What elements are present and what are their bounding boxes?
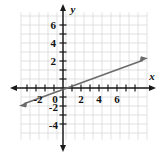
x-tick-label-2: 2 <box>78 93 84 105</box>
y-tick-label-2: 2 <box>51 55 57 67</box>
x-axis-label: x <box>148 70 155 82</box>
grid-lines <box>21 12 147 139</box>
x-tick-label--2: -2 <box>33 93 43 105</box>
x-tick-label-6: 6 <box>114 93 120 105</box>
graph-canvas: -2 2 4 6 0 6 4 2 -2 -4 x y <box>0 0 164 156</box>
coordinate-plane-figure: -2 2 4 6 0 6 4 2 -2 -4 x y <box>0 0 164 156</box>
y-tick-label-4: 4 <box>51 37 57 49</box>
x-axis <box>10 85 156 91</box>
y-tick-label-6: 6 <box>51 19 57 31</box>
y-axis <box>60 4 66 152</box>
y-axis-label: y <box>69 3 76 15</box>
y-tick-label--4: -4 <box>49 119 59 131</box>
y-tick-label--2: -2 <box>49 101 59 113</box>
y-axis-bottom-arrowhead <box>60 145 66 152</box>
y-axis-top-arrowhead <box>60 4 66 11</box>
x-tick-label-4: 4 <box>96 93 102 105</box>
line-left-arrowhead <box>19 102 27 108</box>
x-axis-left-arrowhead <box>10 85 17 91</box>
x-axis-right-arrowhead <box>149 85 156 91</box>
